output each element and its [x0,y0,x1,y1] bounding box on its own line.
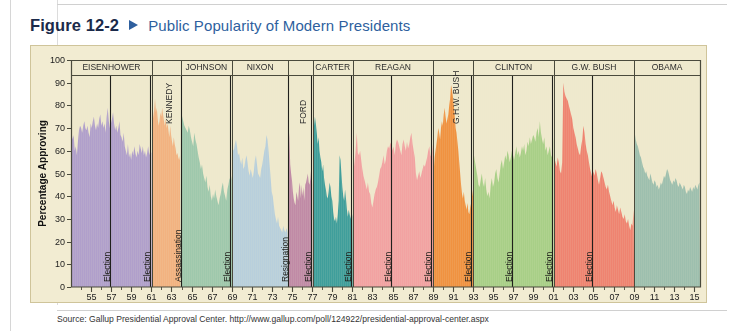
triangle-right-icon [129,20,138,30]
page-top-rule [57,4,727,5]
chart-y-axis-title: Percentage Approving [0,0,1,1]
chart-x-axis-title: Year [0,0,1,1]
figure-page: Figure 12-2 Public Popularity of Modern … [0,0,737,331]
source-rule [57,310,727,311]
page-left-rule [10,0,11,331]
figure-title: Public Popularity of Modern Presidents [148,17,410,34]
figure-header: Figure 12-2 Public Popularity of Modern … [30,12,410,38]
source-caption: Source: Gallup Presidential Approval Cen… [57,314,489,324]
figure-number: Figure 12-2 [30,16,119,35]
presidential-approval-chart [30,45,707,303]
